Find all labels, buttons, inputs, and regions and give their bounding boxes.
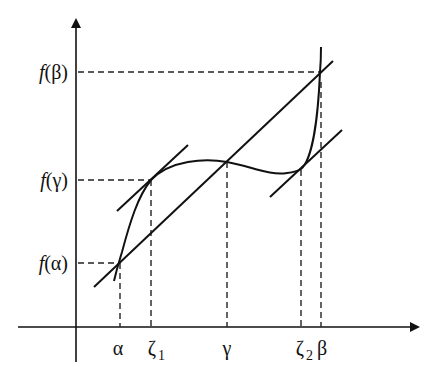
- y-label-f-gamma: f(γ): [40, 169, 68, 192]
- dashed-guides: [78, 72, 321, 327]
- x-label-zeta1: ζ: [148, 337, 156, 360]
- x-axis-labels: αζ1γζ2β: [113, 337, 327, 363]
- x-label-beta: β: [317, 337, 327, 360]
- x-label-alpha: α: [113, 337, 124, 359]
- y-label-f-beta: f(β): [39, 61, 68, 84]
- x-label-zeta2-subscript: 2: [306, 348, 313, 363]
- secant-line: [94, 61, 333, 287]
- x-label-zeta1-subscript: 1: [158, 348, 165, 363]
- y-label-f-alpha: f(α): [39, 252, 68, 275]
- x-label-zeta2: ζ: [296, 337, 304, 360]
- mean-value-diagram: αζ1γζ2β f(β)f(γ)f(α): [0, 0, 433, 380]
- function-curve: [114, 47, 321, 281]
- x-label-gamma: γ: [222, 337, 232, 360]
- y-axis-labels: f(β)f(γ)f(α): [39, 61, 68, 275]
